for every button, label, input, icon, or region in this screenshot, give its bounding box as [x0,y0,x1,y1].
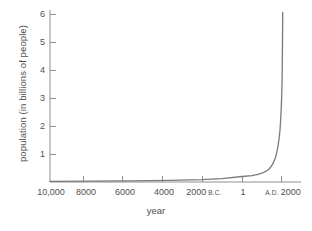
era-label-ad: A.D. [265,189,280,196]
x-tick-label-2000ad-number: 2000 [281,187,301,197]
x-tick-label-2000bc-number: 2000 [186,187,206,197]
era-label-bc: B.C. [206,189,221,196]
y-tick-label-6: 6 [31,9,45,19]
y-tick-label-1: 1 [31,149,45,159]
x-tick-label-8000bc: 8000 [76,187,96,197]
population-curve [50,13,283,182]
y-axis-ticks [50,15,56,155]
y-tick-label-5: 5 [31,37,45,47]
x-axis-title: year [0,205,312,216]
y-tick-label-4: 4 [31,65,45,75]
x-tick-label-6000bc: 6000 [115,187,135,197]
axis-lines [50,10,301,182]
y-tick-label-3: 3 [31,93,45,103]
x-tick-label-10000bc: 10,000 [37,187,65,197]
x-tick-label-2000ad: A.D. 2000 [265,187,300,197]
x-tick-label-2000bc: 2000 B.C. [186,187,221,197]
y-tick-label-2: 2 [31,121,45,131]
x-tick-label-4000bc: 4000 [154,187,174,197]
x-tick-label-year1: 1 [240,187,245,197]
population-chart: population (in billions of people) 6 5 4… [0,0,312,231]
